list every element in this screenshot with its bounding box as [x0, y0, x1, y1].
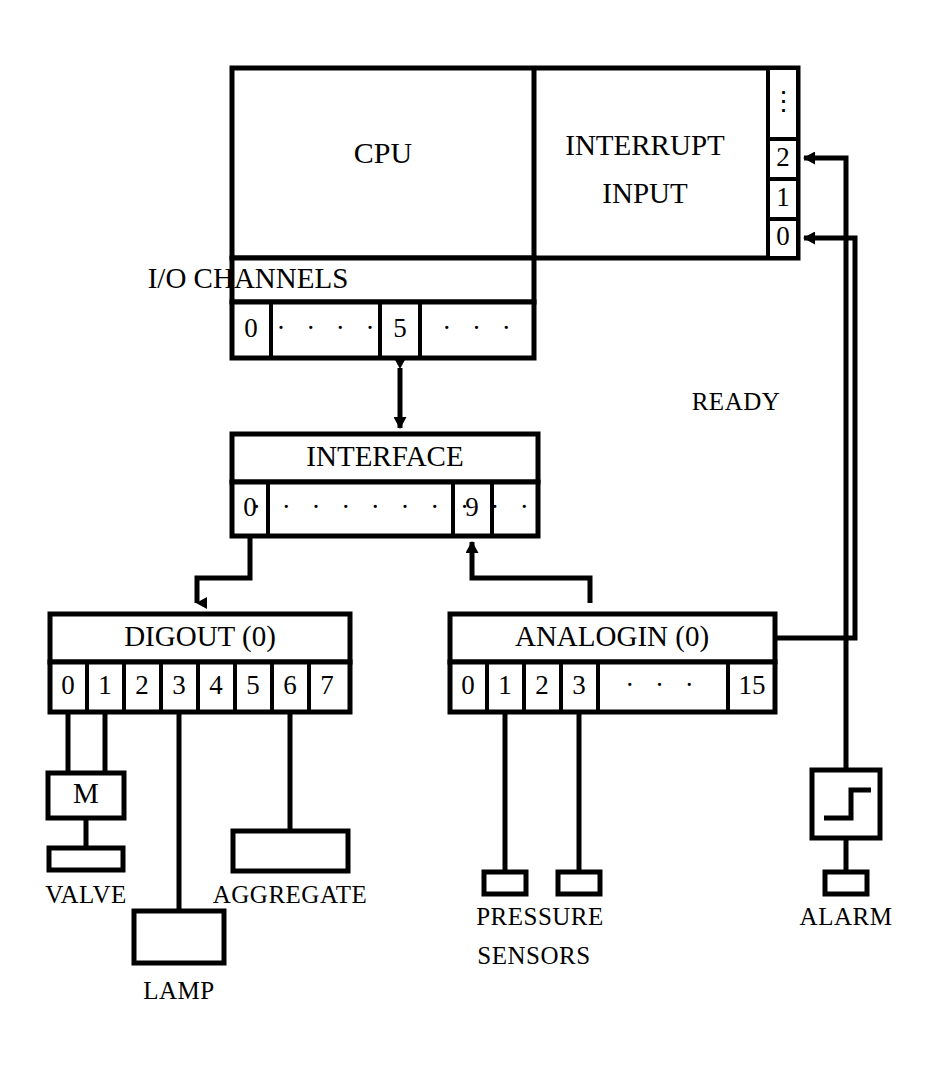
motor-label: M [73, 777, 99, 809]
alarm-label: ALARM [800, 903, 893, 930]
digout-cell-0[interactable]: 0 [61, 670, 75, 700]
digout-cell-1[interactable]: 1 [98, 670, 112, 700]
interrupt-label-line1: INTERRUPT [565, 129, 725, 161]
alarm-step-symbol-box [812, 770, 880, 838]
ready-signal-label: READY [692, 388, 781, 415]
analogin-cell-3[interactable]: 3 [572, 670, 586, 700]
digout-cell-3[interactable]: 3 [172, 670, 186, 700]
aggregate-symbol [233, 831, 348, 871]
lamp-label: LAMP [143, 977, 214, 1004]
aggregate-label: AGGREGATE [213, 881, 368, 908]
interrupt-level-label-2: 2 [776, 142, 790, 172]
diagram-canvas: CPU INTERRUPT INPUT ⋮ 2 1 0 I/O CHANNELS… [0, 0, 932, 1068]
io-channel-cell-0[interactable]: 0 [244, 313, 258, 343]
lamp-symbol [134, 911, 224, 963]
interrupt-level-label-1: 1 [776, 182, 790, 212]
io-channel-cell-dots-2: · · · [442, 313, 517, 343]
interrupt-level-label-0: 0 [776, 221, 790, 251]
digout-cell-4[interactable]: 4 [209, 670, 223, 700]
wire-alarm-to-interrupt2 [804, 158, 846, 770]
digout-cell-2[interactable]: 2 [135, 670, 149, 700]
pressure-sensor-symbol-2 [558, 872, 600, 894]
wire-analogin-to-interface9 [472, 542, 590, 603]
digout-cell-7[interactable]: 7 [320, 670, 334, 700]
digout-label: DIGOUT (0) [124, 620, 276, 653]
valve-label: VALVE [45, 881, 127, 908]
pressure-sensors-label-line2: SENSORS [477, 942, 590, 969]
analogin-cell-1[interactable]: 1 [498, 670, 512, 700]
analogin-label: ANALOGIN (0) [515, 620, 709, 653]
digout-cell-6[interactable]: 6 [283, 670, 297, 700]
io-channel-cell-5[interactable]: 5 [393, 313, 407, 343]
valve-symbol [49, 848, 123, 870]
cpu-label: CPU [354, 136, 413, 169]
io-channels-label: I/O CHANNELS [148, 262, 349, 294]
alarm-contact-symbol [825, 872, 867, 894]
wire-ready-to-interrupt0 [775, 238, 855, 638]
io-channel-cell-dots-1: · · · · [276, 313, 381, 343]
digout-cell-5[interactable]: 5 [246, 670, 260, 700]
interface-cell-dots-2: · · [490, 492, 536, 522]
interface-label: INTERFACE [306, 440, 463, 472]
analogin-cell-15[interactable]: 15 [739, 670, 766, 700]
analogin-cell-dots: · · · [625, 670, 700, 700]
wire-interface0-to-digout [197, 536, 250, 603]
cpu-interrupt-container [232, 68, 798, 258]
analogin-cell-0[interactable]: 0 [461, 670, 475, 700]
analogin-cell-2[interactable]: 2 [535, 670, 549, 700]
pressure-sensor-symbol-1 [484, 872, 526, 894]
interface-cell-dots-1: · · · · · · · · [252, 492, 476, 522]
interrupt-label-line2: INPUT [602, 177, 688, 209]
pressure-sensors-label-line1: PRESSURE [476, 903, 604, 930]
interface-cell-9[interactable]: 9 [465, 492, 479, 522]
interrupt-level-label-dots: ⋮ [770, 86, 797, 116]
block-diagram: CPU INTERRUPT INPUT ⋮ 2 1 0 I/O CHANNELS… [0, 0, 932, 1068]
